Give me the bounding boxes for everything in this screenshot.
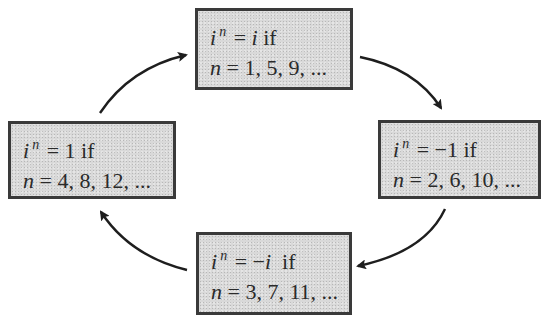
arrow-bottom-to-left xyxy=(101,212,187,270)
arrow-left-to-top xyxy=(100,55,186,113)
value: i xyxy=(265,249,271,274)
value: i xyxy=(252,25,258,50)
equals-sign: = xyxy=(417,137,429,162)
base: i xyxy=(23,138,29,163)
exponent: n xyxy=(402,136,409,151)
n-values: = 4, 8, 12, ... xyxy=(40,168,151,193)
n-values: = 3, 7, 11, ... xyxy=(228,279,339,304)
condition: if xyxy=(81,138,94,163)
node-equation: in = 1 if xyxy=(23,130,173,166)
n-label: n xyxy=(211,279,222,304)
node-i-power-equals-minus-one: in = −1 if n = 2, 6, 10, ... xyxy=(378,120,541,199)
node-condition-values: n = 3, 7, 11, ... xyxy=(211,277,349,307)
base: i xyxy=(211,249,217,274)
arrow-right-to-bottom xyxy=(358,209,445,266)
n-values: = 1, 5, 9, ... xyxy=(227,55,327,80)
node-i-power-equals-minus-i: in = −i if n = 3, 7, 11, ... xyxy=(196,232,352,315)
node-condition-values: n = 2, 6, 10, ... xyxy=(393,165,538,195)
exponent: n xyxy=(220,248,227,263)
node-i-power-equals-i: in = i if n = 1, 5, 9, ... xyxy=(195,8,353,90)
n-label: n xyxy=(393,167,404,192)
node-condition-values: n = 4, 8, 12, ... xyxy=(23,166,173,196)
node-i-power-equals-one: in = 1 if n = 4, 8, 12, ... xyxy=(8,121,176,199)
condition: if xyxy=(463,137,476,162)
node-condition-values: n = 1, 5, 9, ... xyxy=(210,53,350,83)
n-values: = 2, 6, 10, ... xyxy=(410,167,521,192)
equals-sign: = xyxy=(235,249,247,274)
value: −1 xyxy=(435,137,458,162)
base: i xyxy=(210,25,216,50)
condition: if xyxy=(282,249,295,274)
value: 1 xyxy=(65,138,76,163)
arrow-top-to-right xyxy=(360,57,441,108)
exponent: n xyxy=(219,24,226,39)
base: i xyxy=(393,137,399,162)
n-label: n xyxy=(23,168,34,193)
condition: if xyxy=(263,25,276,50)
equals-sign: = xyxy=(47,138,59,163)
equals-sign: = xyxy=(234,25,246,50)
value-sign: − xyxy=(253,249,265,274)
exponent: n xyxy=(32,137,39,152)
node-equation: in = i if xyxy=(210,17,350,53)
n-label: n xyxy=(210,55,221,80)
node-equation: in = −i if xyxy=(211,241,349,277)
node-equation: in = −1 if xyxy=(393,129,538,165)
